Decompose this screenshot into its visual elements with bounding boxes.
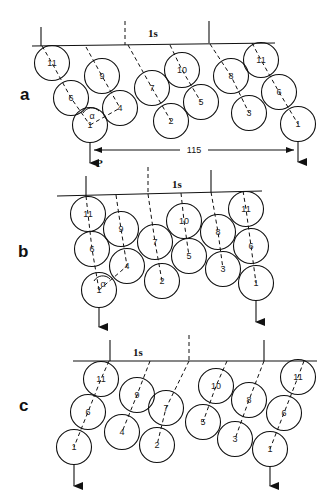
truss-diagram: a1sα11619472105831161P115 b1sα1161947210… [0, 0, 333, 497]
particle-number: 1 [267, 444, 272, 454]
particle-number: 10 [179, 216, 189, 226]
particle-number: 11 [96, 374, 105, 384]
span-label: 1s [148, 27, 159, 39]
particle-number: 6 [68, 93, 73, 103]
particle-number: 1 [71, 442, 76, 452]
panel-c: c1s11619472105831161 [19, 335, 317, 486]
particle-number: 9 [99, 71, 104, 81]
span-label: 1s [133, 346, 144, 358]
particle-number: 2 [154, 440, 159, 450]
particle-number: 3 [246, 108, 251, 118]
panel-label: a [20, 85, 30, 104]
particle-number: 11 [293, 372, 302, 382]
particle-number: 7 [163, 403, 168, 413]
load-label: P [96, 157, 103, 169]
particle-number: 8 [215, 227, 220, 237]
force-chain-line [157, 361, 189, 445]
particle-number: 8 [246, 395, 251, 405]
particle-number: 6 [281, 408, 286, 418]
particle-number: 2 [168, 116, 173, 126]
particle-number: 9 [118, 224, 123, 234]
panel-b: b1sα11619472105831161 [18, 167, 274, 327]
particle-number: 4 [124, 261, 129, 271]
panel-label: b [18, 242, 28, 261]
particle-number: 5 [198, 97, 203, 107]
particle-number: 1 [253, 278, 258, 288]
particle-number: 5 [186, 251, 191, 261]
particle-number: 6 [89, 244, 94, 254]
particle-number: 2 [159, 276, 164, 286]
particle-number: 5 [200, 417, 205, 427]
particle-number: 11 [47, 58, 56, 68]
particle-number: 11 [241, 204, 250, 214]
particle-number: 8 [228, 71, 233, 81]
particle-number: 4 [117, 103, 122, 113]
particle-number: 1 [87, 120, 92, 130]
particle-number: 6 [248, 241, 253, 251]
particle-number: 1 [295, 119, 300, 129]
particle-number: 1 [96, 285, 101, 295]
particle-number: 11 [83, 209, 92, 219]
particle-number: 10 [211, 381, 221, 391]
particle-number: 10 [177, 65, 187, 75]
particle-number: 7 [149, 83, 154, 93]
dimension-label: 115 [187, 145, 201, 155]
span-label: 1s [172, 178, 183, 190]
particle-number: 11 [256, 55, 265, 65]
top-chord-line [32, 43, 275, 46]
particle-number: 3 [220, 264, 225, 274]
particle-number: 3 [232, 434, 237, 444]
particle-number: 4 [119, 427, 124, 437]
panel-label: c [19, 396, 28, 415]
panel-a: a1sα11619472105831161P115 [20, 21, 316, 169]
particle-number: 6 [276, 87, 281, 97]
particle-number: 7 [152, 237, 157, 247]
top-chord-line [57, 191, 262, 196]
particle-number: 6 [85, 407, 90, 417]
particle-number: 9 [134, 390, 139, 400]
